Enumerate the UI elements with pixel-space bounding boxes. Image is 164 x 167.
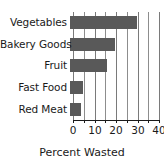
bar-cell <box>70 55 164 77</box>
x-tick-0 <box>73 120 74 123</box>
x-tick-label-40: 40 <box>152 124 164 136</box>
category-label-red-meat: Red Meat <box>0 104 70 115</box>
x-tick-10 <box>95 120 96 123</box>
bar-vegetables <box>70 16 137 29</box>
bar-rows: Vegetables Bakery Goods Fruit Fast Food <box>0 12 164 120</box>
category-label-bakery-goods: Bakery Goods <box>0 39 70 50</box>
bar-row: Fast Food <box>0 77 164 99</box>
bar-red-meat <box>70 103 81 116</box>
bar-cell <box>70 98 164 120</box>
bar-row: Vegetables <box>0 12 164 34</box>
x-tick-label-30: 30 <box>131 124 144 136</box>
bar-fruit <box>70 59 107 72</box>
x-tick-20 <box>116 120 117 123</box>
bar-row: Bakery Goods <box>0 34 164 56</box>
bar-cell <box>70 12 164 34</box>
bar-chart: Vegetables Bakery Goods Fruit Fast Food <box>0 0 164 167</box>
x-tick-label-0: 0 <box>70 124 77 136</box>
bar-cell <box>70 77 164 99</box>
x-tick-35 <box>148 120 149 123</box>
bar-bakery-goods <box>70 38 115 51</box>
x-tick-label-10: 10 <box>88 124 101 136</box>
bar-cell <box>70 34 164 56</box>
category-label-fruit: Fruit <box>0 60 70 71</box>
x-axis-tick-labels: 010203040 <box>73 124 159 138</box>
category-label-fast-food: Fast Food <box>0 82 70 93</box>
plot-area: Vegetables Bakery Goods Fruit Fast Food <box>0 0 164 132</box>
x-tick-label-20: 20 <box>109 124 122 136</box>
bar-row: Fruit <box>0 55 164 77</box>
category-label-vegetables: Vegetables <box>0 17 70 28</box>
bar-row: Red Meat <box>0 98 164 120</box>
bar-fast-food <box>70 81 83 94</box>
x-tick-30 <box>138 120 139 123</box>
x-axis-title: Percent Wasted <box>0 146 164 159</box>
x-tick-15 <box>105 120 106 123</box>
x-tick-25 <box>127 120 128 123</box>
x-tick-5 <box>84 120 85 123</box>
x-tick-40 <box>159 120 160 123</box>
